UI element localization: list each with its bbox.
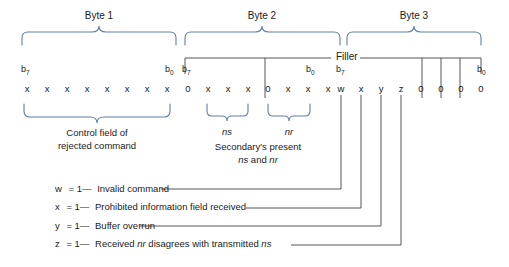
- control-field-label-line2: rejected command: [7, 140, 187, 153]
- secondary-ns: ns: [238, 154, 248, 165]
- bit-byte2-0: x: [321, 83, 335, 94]
- bit-byte1-0: x: [160, 83, 174, 94]
- brace-ns: [207, 104, 248, 121]
- brace-nr: [268, 104, 310, 121]
- secondary-present-line2: ns and nr: [168, 154, 348, 167]
- bit-label-byte3-b7: b7: [336, 64, 345, 76]
- brace-byte-3: [347, 26, 481, 45]
- bit-byte1-3: x: [100, 83, 114, 94]
- legend-text-z-pre: Received: [95, 238, 137, 249]
- legend-text-y: Buffer overrun: [95, 220, 155, 231]
- bit-byte1-1: x: [140, 83, 154, 94]
- byte-1-header: Byte 1: [19, 10, 179, 21]
- bit-byte3-5: y: [374, 83, 388, 94]
- legend-text-z-ns: ns: [261, 238, 271, 249]
- bit-byte2-2: x: [281, 83, 295, 94]
- secondary-nr: nr: [269, 154, 277, 165]
- bit-byte2-4: x: [241, 83, 255, 94]
- legend-symbol-x: x: [55, 201, 60, 212]
- legend-eq-y: = 1—: [66, 220, 89, 231]
- leader-lines-group: [140, 95, 401, 245]
- bit-byte1-7: x: [20, 83, 34, 94]
- bit-byte1-5: x: [60, 83, 74, 94]
- secondary-and: and: [248, 154, 269, 165]
- legend-symbol-w: w: [55, 183, 62, 194]
- bit-label-byte1-b0: b0: [165, 64, 174, 76]
- nr-label: nr: [199, 126, 379, 139]
- bit-label-byte2-b0: b0: [306, 64, 315, 76]
- legend-eq-z: = 1—: [66, 238, 89, 249]
- bit-byte2-6: x: [201, 83, 215, 94]
- brace-byte-2: [185, 26, 340, 45]
- bit-byte2-5: x: [221, 83, 235, 94]
- bit-byte3-6: x: [354, 83, 368, 94]
- bit-byte2-7: 0: [181, 83, 195, 94]
- legend-row-y: y = 1— Buffer overrun: [55, 220, 155, 231]
- bit-byte1-2: x: [120, 83, 134, 94]
- diagram-canvas: Byte 1 Byte 2 Byte 3 Filler b7 b0 b7 b0 …: [0, 0, 509, 267]
- bit-label-byte3-b0: b0: [477, 64, 486, 76]
- bit-byte2-1: x: [301, 83, 315, 94]
- legend-eq-w: = 1—: [69, 183, 92, 194]
- legend-text-z-mid: disagrees with transmitted: [146, 238, 262, 249]
- bit-byte2-3: 0: [261, 83, 275, 94]
- byte-3-header: Byte 3: [334, 10, 494, 21]
- legend-eq-x: = 1—: [66, 201, 89, 212]
- bit-label-byte1-b7: b7: [21, 64, 30, 76]
- bit-byte3-2: 0: [434, 83, 448, 94]
- legend-text-z-nr: nr: [137, 238, 145, 249]
- secondary-present-line1: Secondary's present: [168, 141, 348, 154]
- bit-byte3-3: 0: [414, 83, 428, 94]
- legend-text-x: Prohibited information field received: [95, 201, 246, 212]
- bit-byte3-4: z: [394, 83, 408, 94]
- legend-symbol-y: y: [55, 220, 60, 231]
- byte-2-header: Byte 2: [182, 10, 342, 21]
- legend-text-w: Invalid command: [97, 183, 169, 194]
- bit-byte1-6: x: [40, 83, 54, 94]
- bit-label-byte2-b7: b7: [182, 64, 191, 76]
- bit-byte3-7: w: [334, 83, 348, 94]
- bit-byte3-0: 0: [474, 83, 488, 94]
- legend-row-w: w = 1— Invalid command: [55, 183, 169, 194]
- byte-braces-group: [22, 26, 481, 45]
- brace-control-field: [24, 104, 170, 123]
- leader-line-z: [291, 95, 401, 245]
- legend-row-z: z = 1— Received nr disagrees with transm…: [55, 238, 271, 249]
- field-braces-group: [24, 104, 310, 123]
- bit-byte3-1: 0: [454, 83, 468, 94]
- filler-label: Filler: [334, 51, 360, 62]
- bit-byte1-4: x: [80, 83, 94, 94]
- brace-byte-1: [22, 26, 176, 45]
- legend-symbol-z: z: [55, 238, 60, 249]
- legend-row-x: x = 1— Prohibited information field rece…: [55, 201, 246, 212]
